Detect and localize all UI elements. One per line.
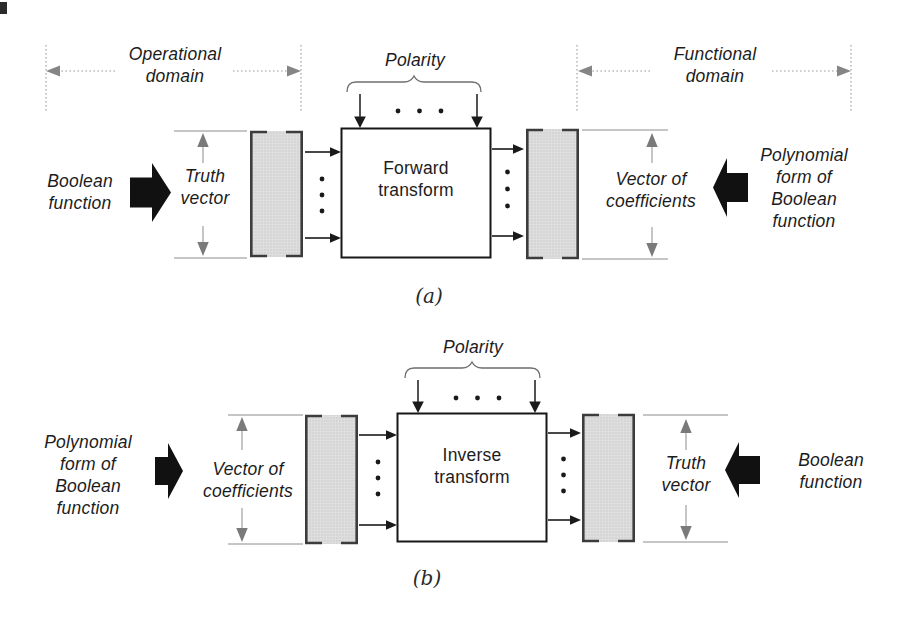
truth-vector-label-a: Truth vector [155, 165, 255, 209]
input-connectors-a-icon [305, 147, 341, 243]
forward-transform-label: Forward transform [342, 157, 490, 201]
block-arrow-right-b-icon [155, 443, 183, 499]
spectral-transform-figure: Operational domain Polarity Functional d… [0, 0, 904, 619]
truth-vector-bar-a-icon [251, 131, 303, 257]
truth-vector-label-b: Truth vector [636, 452, 736, 496]
polarity-label-a: Polarity [355, 49, 475, 71]
vector-of-coefficients-label-b: Vector of coefficients [186, 458, 310, 502]
coefficient-vector-bar-a-icon [527, 129, 579, 259]
caption-b: (b) [397, 566, 457, 590]
operational-domain-label: Operational domain [95, 43, 255, 87]
ellipsis-dots-icon [454, 396, 502, 401]
polynomial-form-label-a: Polynomial form of Boolean function [743, 144, 865, 232]
ellipsis-dots-icon [396, 109, 444, 114]
boolean-function-label-b: Boolean function [771, 449, 891, 493]
output-connectors-b-icon [548, 428, 581, 525]
scan-artifact [0, 2, 7, 14]
coefficient-vector-bar-b-icon [306, 415, 358, 544]
functional-domain-label: Functional domain [635, 43, 795, 87]
polarity-brace-b-icon [405, 362, 541, 413]
ellipsis-dots-icon [505, 170, 510, 209]
polynomial-form-label-b: Polynomial form of Boolean function [26, 431, 150, 519]
ellipsis-dots-icon [376, 460, 381, 497]
caption-a: (a) [399, 284, 459, 308]
ellipsis-dots-icon [561, 457, 566, 494]
inverse-transform-label: Inverse transform [398, 444, 546, 488]
polarity-brace-a-icon [347, 76, 483, 128]
ellipsis-dots-icon [320, 177, 325, 214]
polarity-label-b: Polarity [413, 336, 533, 358]
output-connectors-a-icon [492, 144, 524, 241]
boolean-function-label-a: Boolean function [20, 170, 140, 214]
vector-of-coefficients-label-a: Vector of coefficients [590, 168, 712, 212]
diagram-line-art [0, 0, 904, 619]
input-connectors-b-icon [359, 430, 397, 530]
truth-vector-bar-b-icon [583, 414, 635, 542]
